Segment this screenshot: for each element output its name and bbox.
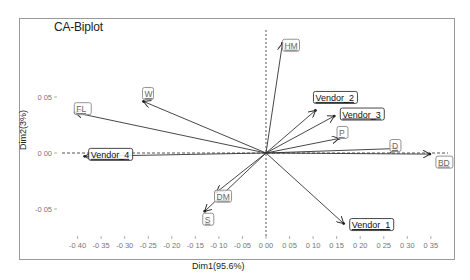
x-tick-label: -0 30 xyxy=(116,241,133,250)
arrow-vendor_1 xyxy=(266,153,344,224)
x-tick-label: -0 05 xyxy=(234,241,251,250)
label-fl: FL xyxy=(76,104,86,114)
arrow-vendor_2 xyxy=(266,110,315,153)
arrow-s xyxy=(205,153,266,211)
point-vendor_2 xyxy=(314,109,317,112)
point-vendor_3 xyxy=(333,115,336,118)
x-tick-label: -0 10 xyxy=(210,241,227,250)
x-tick-label: -0 25 xyxy=(140,241,157,250)
point-s xyxy=(203,210,206,213)
x-tick-label: -0 20 xyxy=(163,241,180,250)
point-vendor_1 xyxy=(342,222,345,225)
label-w: W xyxy=(145,89,153,99)
biplot-canvas: -0 40-0 35-0 30-0 25-0 20-0 15-0 10-0 05… xyxy=(0,0,470,280)
label-d: D xyxy=(392,141,398,151)
y-tick-label: -0 05 xyxy=(35,205,52,214)
label-bd: BD xyxy=(438,158,450,168)
x-tick-label: 0 30 xyxy=(400,241,415,250)
x-tick-label: 0 20 xyxy=(353,241,368,250)
x-tick-label: -0 40 xyxy=(69,241,86,250)
label-dm: DM xyxy=(217,192,230,202)
label-vendor_3: Vendor_3 xyxy=(342,110,381,120)
label-p: P xyxy=(339,128,345,138)
point-bd xyxy=(429,153,432,156)
arrow-w xyxy=(144,101,266,153)
arrow-vendor_3 xyxy=(266,116,334,153)
point-vendor_4 xyxy=(83,155,86,158)
arrows xyxy=(74,42,431,225)
label-vendor_4: Vendor_4 xyxy=(91,150,130,160)
arrow-bd xyxy=(266,153,430,154)
x-tick-label: 0 05 xyxy=(282,241,297,250)
point-w xyxy=(142,100,145,103)
x-tick-label: 0 15 xyxy=(329,241,344,250)
arrow-fl xyxy=(75,113,266,153)
y-tick-label: 0 00 xyxy=(37,149,52,158)
label-vendor_2: Vendor_2 xyxy=(315,93,354,103)
x-tick-label: 0 10 xyxy=(306,241,321,250)
x-tick-label: 0 25 xyxy=(376,241,391,250)
label-hm: HM xyxy=(284,41,297,51)
x-tick-label: 0 00 xyxy=(259,241,274,250)
x-tick-label: -0 15 xyxy=(187,241,204,250)
x-tick-label: -0 35 xyxy=(93,241,110,250)
axes: -0 40-0 35-0 30-0 25-0 20-0 15-0 10-0 05… xyxy=(35,30,448,250)
arrow-hm xyxy=(266,43,282,153)
y-tick-label: 0 05 xyxy=(37,93,52,102)
label-vendor_1: Vendor_1 xyxy=(352,220,391,230)
arrow-dm xyxy=(217,153,266,192)
point-labels: Vendor_1Vendor_2Vendor_3Vendor_4HMFLWPDB… xyxy=(74,39,453,230)
label-s: S xyxy=(205,215,211,225)
x-tick-label: 0 35 xyxy=(424,241,439,250)
